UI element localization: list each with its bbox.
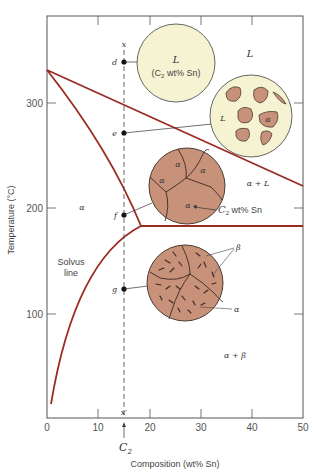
x-top-label: x (122, 40, 127, 49)
x-tick-40: 40 (246, 422, 258, 433)
beta-label: β (235, 243, 241, 252)
c2-wt-sn-label: C2 wt% Sn (218, 204, 262, 216)
region-alpha-liquid-label: α + L (247, 179, 270, 188)
region-liquid-label: L (246, 48, 254, 59)
solvus-label-2: line (64, 268, 78, 278)
svg-text:g: g (112, 285, 117, 294)
microstructure-e-liquid-alpha: L α (210, 75, 292, 157)
svg-text:L: L (219, 114, 225, 123)
svg-text:L: L (172, 54, 180, 65)
phase-diagram-svg: 0 10 20 30 40 50 300 200 100 Composition… (0, 0, 316, 472)
c2-arrow-head (122, 422, 126, 427)
y-tick-200: 200 (26, 203, 43, 214)
region-alpha-beta-label: α + β (224, 351, 246, 360)
x-axis-title: Composition (wt% Sn) (130, 459, 219, 469)
region-alpha-label: α (79, 203, 85, 212)
svg-text:α: α (200, 166, 206, 175)
svg-text:e: e (112, 129, 117, 138)
phase-diagram-figure: 0 10 20 30 40 50 300 200 100 Composition… (0, 0, 316, 472)
x-tick-50: 50 (297, 422, 309, 433)
x-tick-0: 0 (44, 422, 50, 433)
svg-text:α: α (265, 115, 271, 124)
solvus-label-1: Solvus (57, 257, 85, 267)
svg-text:α: α (159, 176, 165, 185)
y-tick-100: 100 (26, 309, 43, 320)
alpha-label: α (234, 305, 240, 314)
svg-text:d: d (112, 58, 117, 67)
microstructure-d-liquid: L (C2 wt% Sn) (137, 24, 215, 102)
c2-label: C2 (119, 441, 132, 456)
svg-text:α: α (185, 201, 191, 210)
svg-text:α: α (175, 160, 181, 169)
svg-text:(C2 wt% Sn): (C2 wt% Sn) (152, 68, 201, 79)
y-axis-title: Temperature (°C) (6, 185, 16, 254)
x-bottom-label: x′ (121, 408, 128, 417)
x-tick-30: 30 (195, 422, 207, 433)
x-tick-20: 20 (144, 422, 156, 433)
x-tick-10: 10 (92, 422, 104, 433)
y-tick-300: 300 (26, 98, 43, 109)
